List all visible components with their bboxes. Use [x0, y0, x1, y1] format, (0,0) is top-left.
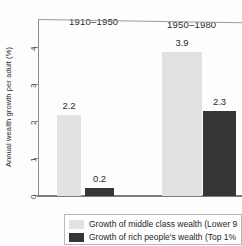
chart-legend: Growth of middle class wealth (Lower 9 G… — [64, 214, 242, 245]
bar-middle-class-1910-1950 — [57, 115, 81, 196]
y-tick-label-3: 3 — [29, 84, 38, 96]
legend-label-middle-class: Growth of middle class wealth (Lower 9 — [89, 219, 237, 229]
legend-item-rich: Growth of rich people's wealth (Top 1% — [69, 231, 236, 243]
bar-value-3-9: 3.9 — [162, 37, 202, 48]
bar-value-2-3: 2.3 — [203, 96, 236, 107]
y-axis-label: Annual wealth growth per adult (%) — [4, 47, 13, 167]
legend-item-middle-class: Growth of middle class wealth (Lower 9 — [69, 218, 237, 230]
bar-chart: 1910–1950 1950–1980 Annual wealth growth… — [0, 0, 242, 246]
bar-middle-class-1950-1980 — [162, 52, 202, 196]
legend-label-rich: Growth of rich people's wealth (Top 1% — [89, 232, 236, 242]
y-tick-label-1: 1 — [29, 158, 38, 170]
legend-swatch-dark-icon — [69, 233, 84, 242]
legend-swatch-light-icon — [69, 220, 84, 229]
y-tick-label-2: 2 — [29, 121, 38, 133]
bar-rich-1950-1980 — [203, 111, 236, 196]
bar-value-0-2: 0.2 — [85, 173, 114, 184]
bar-rich-1910-1950 — [85, 188, 114, 196]
bar-value-2-2: 2.2 — [57, 100, 81, 111]
plot-top-border — [38, 19, 242, 23]
plot-area: Annual wealth growth per adult (%) 4 3 2… — [38, 19, 242, 196]
y-tick-label-4: 4 — [29, 47, 38, 59]
y-tick-label-0: 0 — [29, 195, 38, 207]
y-axis-line — [38, 19, 39, 196]
